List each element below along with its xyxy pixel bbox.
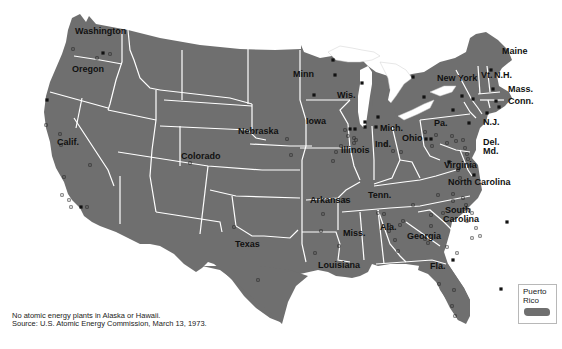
puerto-rico-label-line-2: Rico <box>523 297 547 306</box>
state-label: N.J. <box>483 118 500 127</box>
operable-plant-marker <box>491 87 494 90</box>
operable-plant-marker <box>451 258 454 261</box>
operable-plant-marker <box>348 127 351 130</box>
puerto-rico-label: Puerto Rico <box>523 288 547 305</box>
operable-plant-marker <box>497 105 500 108</box>
state-label: Vt. <box>481 71 493 80</box>
state-label: Illinois <box>341 146 370 155</box>
planned-plant-marker <box>68 199 70 201</box>
operable-plant-marker <box>376 115 379 118</box>
texas-south <box>202 266 308 324</box>
puerto-rico-inset: Puerto Rico <box>518 284 557 324</box>
operable-plant-marker <box>79 205 82 208</box>
planned-plant-marker <box>446 246 448 248</box>
state-label: Maine <box>502 47 528 56</box>
state-label: Calif. <box>57 138 79 147</box>
operable-plant-marker <box>374 125 377 128</box>
state-label: Ala. <box>380 223 397 232</box>
state-label: Iowa <box>306 117 326 126</box>
operable-plant-marker <box>312 93 315 96</box>
state-label: Minn <box>293 70 314 79</box>
operable-plant-marker <box>360 81 363 84</box>
operable-plant-marker <box>353 127 356 130</box>
operable-plant-marker <box>429 137 432 140</box>
operable-plant-marker <box>45 98 48 101</box>
state-label: New York <box>437 74 477 83</box>
operable-plant-marker <box>494 99 497 102</box>
state-label: North Carolina <box>448 178 511 187</box>
state-label: Pa. <box>434 119 448 128</box>
state-label: Md. <box>483 147 499 156</box>
planned-plant-marker <box>475 227 477 229</box>
state-label: Fla. <box>430 262 446 271</box>
us-map <box>0 0 562 349</box>
footnote-line-2: Source: U.S. Atomic Energy Commission, M… <box>12 320 207 328</box>
state-label: Georgia <box>407 232 441 241</box>
state-label: Ohio <box>402 134 423 143</box>
operable-plant-marker <box>471 97 474 100</box>
operable-plant-marker <box>101 51 104 54</box>
state-label: Conn. <box>508 97 534 106</box>
operable-plant-marker <box>411 75 414 78</box>
operable-plant-marker <box>485 111 488 114</box>
operable-plant-marker <box>333 73 336 76</box>
operable-plant-marker <box>460 94 463 97</box>
state-label: Wis. <box>337 91 355 100</box>
state-label: Virginia <box>444 161 477 170</box>
state-label: Washington <box>75 27 126 36</box>
planned-plant-marker <box>479 235 481 237</box>
state-label: Colorado <box>181 152 221 161</box>
operable-plant-marker <box>363 125 366 128</box>
operable-plant-marker <box>499 287 502 290</box>
state-label: Ind. <box>375 140 391 149</box>
planned-plant-marker <box>471 237 473 239</box>
state-label: Arkansas <box>310 196 351 205</box>
state-label: Miss. <box>343 229 366 238</box>
state-label: Mich. <box>380 124 403 133</box>
state-label: Carolina <box>443 215 479 224</box>
planned-plant-marker <box>70 206 72 208</box>
operable-plant-marker <box>422 95 425 98</box>
state-label: Tenn. <box>368 191 391 200</box>
state-label: Oregon <box>72 65 104 74</box>
state-label: Louisiana <box>318 261 360 270</box>
operable-plant-marker <box>424 137 427 140</box>
planned-plant-marker <box>456 252 458 254</box>
operable-plant-marker <box>467 121 470 124</box>
operable-plant-marker <box>331 58 334 61</box>
planned-plant-marker <box>61 194 63 196</box>
state-label: Nebraska <box>238 127 279 136</box>
operable-plant-marker <box>505 220 508 223</box>
state-label: N.H. <box>494 71 512 80</box>
operable-plant-marker <box>451 108 454 111</box>
operable-plant-marker <box>363 120 366 123</box>
lake-superior <box>328 46 380 62</box>
state-label: Texas <box>235 240 260 249</box>
puerto-rico-shape <box>524 308 550 316</box>
footnote: No atomic energy plants in Alaska or Haw… <box>12 312 207 328</box>
state-label: Mass. <box>508 85 533 94</box>
